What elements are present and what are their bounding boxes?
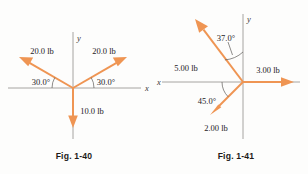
fig1-40-x-axis-label: x	[144, 83, 149, 93]
fig1-41-caption: Fig. 1-41	[218, 151, 255, 161]
fig1-40-caption: Fig. 1-40	[56, 151, 93, 161]
fig1-40-y-axis-label: y	[76, 33, 81, 43]
fig1-41-vector-3lb	[243, 77, 294, 87]
fig1-41-y-axis-label: y	[246, 14, 251, 24]
fig1-41-angle-arc-37	[225, 52, 243, 60]
fig1-41-label-3lb: 3.00 lb	[256, 65, 280, 75]
fig1-41-vector-5lb	[195, 19, 243, 82]
fig1-41-angle-leader-37	[228, 42, 233, 55]
fig1-40-angle-label-left: 30.0°	[32, 77, 50, 87]
fig1-40-label-20lb-left: 20.0 lb	[30, 46, 54, 56]
fig1-41-angle-arc-45	[222, 82, 228, 97]
figure-sheet: 20.0 lb 20.0 lb 10.0 lb 30.0° 30.0° y x …	[0, 0, 308, 174]
figure-1-40: 20.0 lb 20.0 lb 10.0 lb 30.0° 30.0° y x …	[8, 32, 149, 161]
physics-vector-diagrams: 20.0 lb 20.0 lb 10.0 lb 30.0° 30.0° y x …	[0, 0, 308, 174]
fig1-40-angle-label-right: 30.0°	[97, 77, 115, 87]
fig1-40-angle-arc-left	[52, 78, 55, 89]
fig1-40-label-10lb-down: 10.0 lb	[80, 106, 104, 116]
fig1-41-angle-label-45: 45.0°	[198, 96, 216, 106]
fig1-41-angle-label-37: 37.0°	[217, 33, 235, 43]
figure-1-41: 5.00 lb 3.00 lb 2.00 lb 37.0° 45.0° y x …	[156, 14, 300, 161]
fig1-41-x-axis-label: x	[156, 77, 161, 87]
fig1-41-label-5lb: 5.00 lb	[174, 63, 198, 73]
fig1-40-angle-arc-right	[91, 78, 94, 89]
fig1-40-vector-10lb-down	[68, 88, 78, 128]
fig1-41-label-2lb: 2.00 lb	[204, 123, 228, 133]
fig1-40-label-20lb-right: 20.0 lb	[92, 46, 116, 56]
